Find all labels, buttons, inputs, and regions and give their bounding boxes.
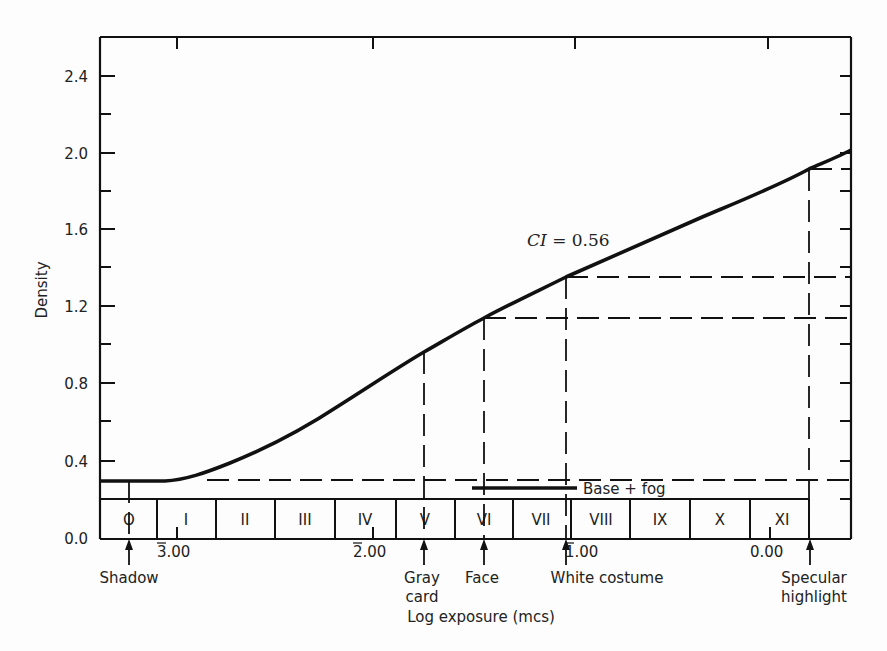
svg-text:III: III: [298, 511, 311, 529]
x-tick-labels: 3.00 2.00 1.00 0.00: [157, 543, 783, 561]
y-tick-labels: 0.0 0.4 0.8 1.2 1.6 2.0 2.4: [64, 68, 88, 548]
svg-text:Face: Face: [465, 569, 499, 587]
svg-text:highlight: highlight: [781, 588, 847, 606]
svg-text:IV: IV: [358, 511, 373, 529]
svg-text:1.00: 1.00: [565, 543, 598, 561]
marker-labels: Shadow Gray card Face White costume Spec…: [99, 569, 847, 606]
x-axis-label: Log exposure (mcs): [407, 608, 555, 626]
x-axis-ticks-top: [177, 37, 768, 49]
svg-text:White costume: White costume: [551, 569, 664, 587]
svg-text:Specular: Specular: [781, 569, 847, 587]
zone-scale: [100, 499, 809, 539]
svg-text:Shadow: Shadow: [99, 569, 158, 587]
svg-text:0.4: 0.4: [64, 453, 88, 471]
svg-text:0.00: 0.00: [750, 543, 783, 561]
svg-text:X: X: [715, 511, 725, 529]
svg-text:2.4: 2.4: [64, 68, 88, 86]
svg-text:0.8: 0.8: [64, 375, 88, 393]
y-axis-ticks: [100, 76, 115, 461]
svg-text:VII: VII: [531, 511, 550, 529]
svg-text:1.6: 1.6: [64, 221, 88, 239]
svg-text:II: II: [241, 511, 250, 529]
base-fog-label: Base + fog: [583, 480, 666, 498]
contrast-index-label: CI = 0.56: [527, 230, 610, 250]
svg-text:Gray: Gray: [404, 569, 440, 587]
svg-text:1.2: 1.2: [64, 298, 88, 316]
characteristic-curve-chart: 0.0 0.4 0.8 1.2 1.6 2.0 2.4 Density O I …: [0, 0, 887, 651]
svg-text:XI: XI: [775, 511, 790, 529]
svg-text:VIII: VIII: [589, 511, 613, 529]
reference-lines: [129, 169, 851, 539]
marker-arrows: [125, 539, 814, 565]
y-axis-label: Density: [33, 261, 51, 318]
svg-text:I: I: [184, 511, 188, 529]
svg-text:2.00: 2.00: [353, 543, 386, 561]
svg-text:3.00: 3.00: [157, 543, 190, 561]
y-axis-ticks-right: [840, 76, 851, 499]
svg-text:V: V: [420, 511, 431, 529]
svg-text:card: card: [406, 588, 439, 606]
svg-text:2.0: 2.0: [64, 145, 88, 163]
svg-text:0.0: 0.0: [64, 530, 88, 548]
characteristic-curve: [100, 150, 851, 481]
plot-frame: [100, 37, 851, 539]
svg-text:IX: IX: [653, 511, 668, 529]
